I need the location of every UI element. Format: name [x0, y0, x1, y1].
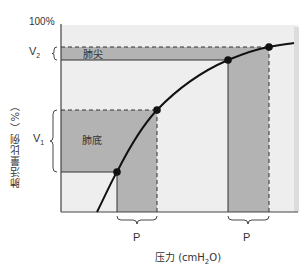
v2-brace [52, 47, 57, 60]
point-base-upper [153, 106, 161, 114]
pressure-volume-diagram [0, 0, 307, 271]
apex-label: 肺尖 [83, 46, 103, 61]
x-axis-label-end: O) [209, 252, 221, 263]
p-left-label: P [133, 231, 140, 243]
p-right-brace [228, 216, 269, 224]
point-base-lower [113, 168, 121, 176]
p-right-label: P [243, 231, 250, 243]
point-apex-upper [265, 43, 273, 51]
x-axis-label: 压力 (cmH2O) [155, 249, 221, 266]
v1-label: V1 [33, 132, 44, 146]
apex-pressure-column [228, 47, 269, 212]
point-apex-lower [224, 56, 232, 64]
base-label: 肺底 [82, 132, 102, 147]
x-axis-label-main: 压力 (cmH [155, 252, 205, 263]
y-tick-100: 100% [29, 16, 55, 27]
v1-brace [50, 110, 57, 172]
v1-subscript: 1 [40, 139, 44, 146]
p-left-brace [117, 216, 157, 224]
plot-right-shadow [294, 27, 299, 212]
v2-label: V2 [29, 45, 40, 59]
y-axis-label: 肺活量比例（%） [8, 100, 23, 188]
v2-subscript: 2 [36, 52, 40, 59]
